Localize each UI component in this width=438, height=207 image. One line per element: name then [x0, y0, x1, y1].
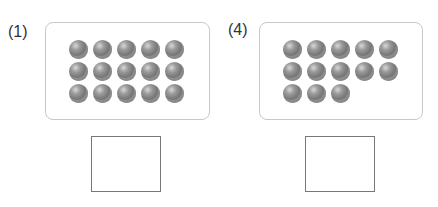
- marble-icon: [307, 84, 326, 103]
- marble-icon: [379, 62, 398, 81]
- answer-box[interactable]: [91, 136, 161, 192]
- marble-panel: [45, 22, 210, 120]
- marble-icon: [165, 40, 184, 59]
- marble-icon: [355, 40, 374, 59]
- marble-icon: [331, 40, 350, 59]
- marble-icon: [141, 40, 160, 59]
- marble-icon: [93, 84, 112, 103]
- marble-icon: [141, 62, 160, 81]
- marble-icon: [165, 62, 184, 81]
- marble-icon: [379, 40, 398, 59]
- marble-icon: [117, 40, 136, 59]
- marble-icon: [331, 84, 350, 103]
- marble-icon: [69, 62, 88, 81]
- marble-icon: [355, 62, 374, 81]
- marble-icon: [141, 84, 160, 103]
- marble-icon: [93, 40, 112, 59]
- marble-icon: [93, 62, 112, 81]
- marble-icon: [117, 62, 136, 81]
- answer-box[interactable]: [305, 136, 375, 192]
- problem-label: (4): [228, 21, 248, 39]
- marble-icon: [283, 40, 302, 59]
- marble-icon: [165, 84, 184, 103]
- marble-icon: [69, 84, 88, 103]
- marble-icon: [283, 62, 302, 81]
- marble-icon: [307, 40, 326, 59]
- marble-icon: [331, 62, 350, 81]
- marble-icon: [307, 62, 326, 81]
- marble-icon: [69, 40, 88, 59]
- marble-icon: [117, 84, 136, 103]
- marble-panel: [259, 22, 423, 120]
- problem-label: (1): [8, 23, 28, 41]
- marble-icon: [283, 84, 302, 103]
